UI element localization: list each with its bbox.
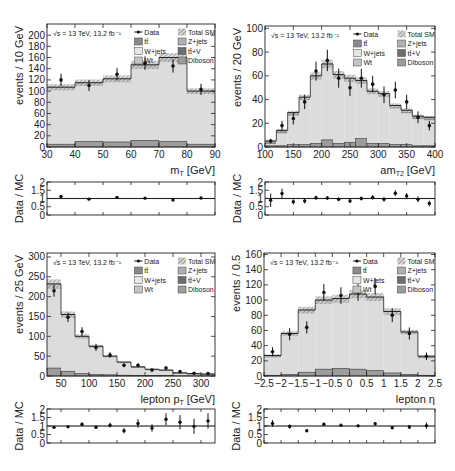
- color-swatch-icon: [178, 267, 186, 274]
- data-marker: [59, 78, 63, 82]
- legend-item-zjets: Z+jets: [178, 267, 208, 275]
- data-marker: [66, 315, 70, 319]
- legend-label: W+jets: [363, 50, 385, 58]
- wjets-bar: [281, 336, 298, 375]
- wjets-bar: [131, 368, 145, 376]
- y-tick-label: 40: [34, 119, 46, 130]
- data-marker: [52, 289, 56, 293]
- ratio-marker: [416, 198, 419, 201]
- y-tick-label: 0: [257, 142, 263, 153]
- legend-label: Diboson: [188, 286, 214, 293]
- legend-label: Total SM: [408, 31, 435, 38]
- x-tick-label: 60: [125, 149, 137, 160]
- color-swatch-icon: [134, 57, 142, 64]
- other-bkg-bar: [378, 143, 389, 147]
- color-swatch-icon: [134, 48, 142, 55]
- color-swatch-icon: [353, 277, 361, 284]
- x-axis-label: mT [GeV]: [170, 164, 215, 177]
- legend-item-ttv: tt̄+V: [178, 48, 201, 55]
- other-bkg-bar: [332, 368, 349, 376]
- legend-label: W+jets: [144, 277, 166, 285]
- y-tick-label: 300: [28, 251, 45, 262]
- legend-item-ttv: tt̄+V: [398, 50, 421, 57]
- stacked-histogram: [265, 60, 435, 147]
- wjets-bar: [401, 334, 418, 374]
- other-bkg-bar: [298, 372, 315, 376]
- y-axis-label: events / 25 GeV: [13, 254, 25, 334]
- other-bkg-bar: [159, 141, 187, 147]
- ratio-y-axis-label: Data / MC: [13, 174, 25, 224]
- y-tick-label: 250: [28, 271, 45, 282]
- ratio-marker: [339, 424, 342, 427]
- legend: √s = 13 TeV, 13.2 fb⁻¹DataTotal SMtt̄Z+j…: [53, 29, 215, 65]
- other-bkg-bar: [131, 140, 159, 147]
- y-tick-label: 80: [34, 97, 46, 108]
- data-marker: [322, 291, 326, 295]
- legend-label: Z+jets: [188, 267, 208, 275]
- wjets-bar: [276, 133, 287, 145]
- wjets-bar: [159, 371, 173, 376]
- ratio-panel: 00.511.52Data / MC: [230, 401, 435, 451]
- other-bkg-bar: [350, 369, 367, 376]
- x-tick-label: 200: [137, 378, 154, 389]
- data-marker: [348, 86, 352, 90]
- legend-label: Data: [144, 258, 159, 265]
- legend-label: Z+jets: [407, 267, 427, 275]
- wjets-bar: [159, 62, 187, 141]
- x-tick-label: 150: [285, 149, 302, 160]
- wjets-bar: [103, 82, 131, 142]
- legend-label: tt̄: [144, 267, 148, 274]
- x-tick-label: 80: [181, 149, 193, 160]
- y-axis-label: events / 10 GeV: [13, 25, 25, 105]
- data-marker: [303, 100, 307, 104]
- y-tick-label: 0: [256, 371, 262, 382]
- legend-item-data: Data: [134, 258, 159, 265]
- legend-item-ttv: tt̄+V: [397, 277, 420, 284]
- ratio-marker: [199, 196, 202, 199]
- ratio-marker: [80, 423, 83, 426]
- panels-group: 3040506070809002040608010012014016018020…: [13, 23, 444, 451]
- data-marker: [150, 368, 154, 372]
- y-tick-label: 40: [251, 340, 263, 351]
- wjets-bar: [356, 84, 367, 139]
- data-marker: [108, 353, 112, 357]
- legend-label: tt̄+V: [408, 50, 421, 57]
- other-bkg-bar: [322, 140, 333, 147]
- x-tick-label: 2: [415, 378, 421, 389]
- data-marker: [371, 82, 375, 86]
- legend-label: Total SM: [188, 29, 215, 36]
- data-marker: [405, 100, 409, 104]
- color-swatch-icon: [397, 286, 405, 293]
- data-marker: [206, 372, 210, 376]
- ratio-marker: [178, 421, 181, 424]
- legend-item-zjets: Z+jets: [397, 267, 427, 275]
- ratio-marker: [206, 419, 209, 422]
- legend-label: Z+jets: [408, 40, 428, 48]
- ratio-y-tick-label: 2: [256, 404, 262, 415]
- y-tick-label: 20: [252, 118, 264, 129]
- y-tick-label: 20: [251, 355, 263, 366]
- y-tick-label: 200: [28, 30, 45, 41]
- x-tick-label: 300: [193, 378, 210, 389]
- ratio-marker: [322, 423, 325, 426]
- ratio-marker: [303, 199, 306, 202]
- ratio-marker: [171, 198, 174, 201]
- x-tick-label: 0.5: [360, 378, 374, 389]
- data-marker: [292, 117, 296, 121]
- legend-item-ttbar: tt̄: [134, 38, 148, 45]
- hatch-swatch-icon: [178, 29, 186, 36]
- x-tick-label: 200: [313, 149, 330, 160]
- legend-item-total_sm: Total SM: [178, 29, 215, 36]
- color-swatch-icon: [397, 277, 405, 284]
- ratio-marker: [305, 429, 308, 432]
- data-marker: [115, 73, 119, 77]
- legend-label: Wt: [363, 286, 372, 293]
- data-marker: [360, 76, 364, 80]
- color-swatch-icon: [398, 40, 406, 47]
- y-tick-label: 160: [245, 249, 262, 260]
- legend-item-total_sm: Total SM: [398, 31, 435, 38]
- color-swatch-icon: [178, 57, 186, 64]
- ratio-marker: [314, 196, 317, 199]
- legend-item-data: Data: [353, 258, 378, 265]
- y-tick-label: 40: [252, 94, 264, 105]
